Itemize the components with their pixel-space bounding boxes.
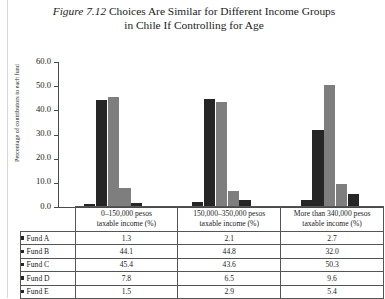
bar-group xyxy=(59,62,167,207)
legend-swatch-icon xyxy=(21,250,24,253)
table-value-cell: 2.9 xyxy=(178,285,281,298)
y-axis-tick: 40.0 xyxy=(0,110,58,111)
table-value-cell: 2.1 xyxy=(178,232,281,245)
fund-label: Fund E xyxy=(27,287,49,296)
y-axis-tick-label: 30.0 xyxy=(36,128,51,138)
figure-title-line1: Choices Are Similar for Different Income… xyxy=(109,5,335,17)
fund-label-cell: Fund E xyxy=(21,285,76,298)
column-header-line1: 150,000–350,000 pesos xyxy=(178,209,280,220)
bar xyxy=(216,102,227,207)
figure-title-line2: in Chile If Controlling for Age xyxy=(124,19,264,31)
bar xyxy=(108,97,119,207)
table-value-cell: 45.4 xyxy=(75,258,178,271)
column-header-line1: 0–150,000 pesos xyxy=(76,209,178,220)
bars-container xyxy=(59,62,384,207)
y-axis-tick-mark xyxy=(54,135,58,136)
fund-label-cell: Fund B xyxy=(21,245,76,258)
table-value-cell: 50.3 xyxy=(281,258,384,271)
table-row: Fund D7.86.59.6 xyxy=(21,272,384,285)
table-value-cell: 9.6 xyxy=(281,272,384,285)
table-row: Fund E1.52.95.4 xyxy=(21,285,384,298)
column-header-line2: taxable income (%) xyxy=(281,219,383,230)
fund-label: Fund D xyxy=(27,274,50,283)
y-axis-tick-mark xyxy=(54,183,58,184)
y-axis-tick-mark xyxy=(54,62,58,63)
table-value-cell: 5.4 xyxy=(281,285,384,298)
data-table: 0–150,000 pesostaxable income (%)150,000… xyxy=(20,206,384,299)
bar-group xyxy=(276,62,384,207)
y-axis-tick-label: 50.0 xyxy=(36,80,51,90)
table-value-cell: 1.3 xyxy=(75,232,178,245)
fund-label-cell: Fund D xyxy=(21,272,76,285)
legend-swatch-icon xyxy=(21,276,24,279)
table-body: Fund A1.32.12.7Fund B44.144.832.0Fund C4… xyxy=(21,232,384,299)
y-axis-tick: 30.0 xyxy=(0,135,58,136)
legend-swatch-icon xyxy=(21,263,24,266)
column-header-line1: More than 340,000 pesos xyxy=(281,209,383,220)
fund-label: Fund A xyxy=(27,234,50,243)
y-axis-tick: 10.0 xyxy=(0,183,58,184)
y-axis-tick-label: 40.0 xyxy=(36,104,51,114)
table-column-header: More than 340,000 pesostaxable income (%… xyxy=(281,207,384,232)
table-row: Fund C45.443.650.3 xyxy=(21,258,384,271)
data-table-wrapper: 0–150,000 pesostaxable income (%)150,000… xyxy=(20,206,384,299)
bar-group xyxy=(167,62,275,207)
legend-swatch-icon xyxy=(21,236,24,239)
bar xyxy=(96,100,107,207)
bar xyxy=(324,85,335,207)
table-value-cell: 43.6 xyxy=(178,258,281,271)
y-axis-title: Percentage of contributors to each fund xyxy=(14,38,20,188)
y-axis-tick-mark xyxy=(54,86,58,87)
bar xyxy=(336,184,347,207)
fund-label-cell: Fund C xyxy=(21,258,76,271)
bar xyxy=(119,188,130,207)
y-axis-tick-mark xyxy=(54,110,58,111)
table-value-cell: 6.5 xyxy=(178,272,281,285)
y-axis-tick: 50.0 xyxy=(0,86,58,87)
table-value-cell: 44.1 xyxy=(75,245,178,258)
table-value-cell: 44.8 xyxy=(178,245,281,258)
y-axis-tick: 20.0 xyxy=(0,159,58,160)
bar xyxy=(204,99,215,207)
y-axis-tick-mark xyxy=(54,159,58,160)
column-header-line2: taxable income (%) xyxy=(76,219,178,230)
table-column-header: 150,000–350,000 pesostaxable income (%) xyxy=(178,207,281,232)
fund-label-cell: Fund A xyxy=(21,232,76,245)
table-column-header: 0–150,000 pesostaxable income (%) xyxy=(75,207,178,232)
table-header-row: 0–150,000 pesostaxable income (%)150,000… xyxy=(21,207,384,232)
column-header-line2: taxable income (%) xyxy=(178,219,280,230)
y-axis-tick-label: 10.0 xyxy=(36,176,51,186)
table-row: Fund A1.32.12.7 xyxy=(21,232,384,245)
fund-label: Fund C xyxy=(27,260,50,269)
y-axis-tick: 60.0 xyxy=(0,62,58,63)
table-row: Fund B44.144.832.0 xyxy=(21,245,384,258)
bar xyxy=(228,191,239,207)
figure-number: Figure 7.12 xyxy=(53,5,106,17)
table-corner-cell xyxy=(21,207,76,232)
table-value-cell: 1.5 xyxy=(75,285,178,298)
chart-plot-region: Percentage of contributors to each fund … xyxy=(0,52,385,212)
bar xyxy=(312,130,323,207)
table-value-cell: 7.8 xyxy=(75,272,178,285)
y-axis-tick-label: 20.0 xyxy=(36,152,51,162)
table-value-cell: 32.0 xyxy=(281,245,384,258)
y-axis-tick-label: 60.0 xyxy=(36,56,51,66)
legend-swatch-icon xyxy=(21,290,24,293)
table-value-cell: 2.7 xyxy=(281,232,384,245)
fund-label: Fund B xyxy=(27,247,50,256)
figure-title: Figure 7.12 Choices Are Similar for Diff… xyxy=(18,4,370,32)
